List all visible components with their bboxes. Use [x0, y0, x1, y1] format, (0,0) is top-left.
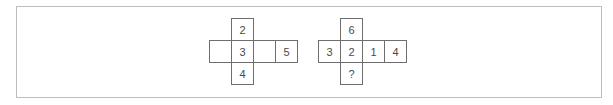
net-cell: 4 — [384, 40, 407, 63]
net-cell: 3 — [231, 40, 254, 63]
net-cell: 4 — [231, 62, 254, 85]
net-cell: 3 — [318, 40, 341, 63]
net-cell: 6 — [340, 18, 363, 41]
net-cell: 2 — [340, 40, 363, 63]
net-cell: 5 — [275, 40, 298, 63]
diagram-frame — [16, 6, 602, 98]
net-cell — [209, 40, 232, 63]
net-cell: 2 — [231, 18, 254, 41]
unknown-face-cell: ? — [340, 62, 363, 85]
net-cell: 1 — [362, 40, 385, 63]
net-cell — [253, 40, 276, 63]
